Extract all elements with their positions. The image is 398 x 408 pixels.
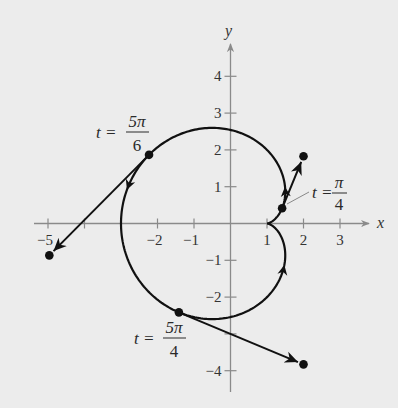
- curve-point: [145, 151, 154, 160]
- t-equals: t =: [96, 123, 116, 142]
- y-axis-label: y: [223, 22, 233, 40]
- fraction-numerator: 5π: [128, 112, 146, 131]
- x-tick-label: 3: [336, 232, 344, 248]
- fraction-denominator: 4: [170, 342, 179, 361]
- curve-point: [278, 204, 287, 213]
- y-tick-label: −2: [206, 289, 222, 305]
- x-tick-label: −2: [147, 232, 163, 248]
- t-equals: t =: [312, 183, 332, 202]
- x-tick-label: −5: [37, 232, 53, 248]
- axes: [34, 44, 369, 392]
- vector-tip-point: [45, 251, 54, 260]
- annotation-t-5pi-6: t = 5π 6: [96, 112, 149, 155]
- leader-line-pi4: [287, 192, 309, 204]
- y-tick-label: 4: [214, 68, 222, 84]
- y-tick-label: 1: [214, 179, 222, 195]
- t-equals: t =: [134, 329, 154, 348]
- parametric-curve-diagram: −5−2−11234321−1−2−4 x y t = π 4 t = 5π 6…: [0, 0, 398, 408]
- annotation-t-pi-4: t = π 4: [312, 173, 347, 214]
- y-tick-label: 3: [214, 105, 222, 121]
- fraction-denominator: 6: [133, 136, 142, 155]
- vector-tip-point: [299, 152, 308, 161]
- x-tick-label: 1: [263, 232, 271, 248]
- annotation-t-5pi-4: t = 5π 4: [134, 318, 186, 361]
- y-tick-label: −1: [206, 252, 222, 268]
- fraction-numerator: π: [335, 173, 344, 192]
- y-tick-label: −4: [206, 363, 222, 379]
- fraction-numerator: 5π: [165, 318, 183, 337]
- curve-point: [175, 308, 184, 317]
- y-tick-label: 2: [214, 142, 222, 158]
- fraction-denominator: 4: [335, 195, 344, 214]
- velocity-vector-arrow: [54, 155, 149, 251]
- velocity-vector-arrow: [179, 312, 298, 362]
- x-axis-label: x: [376, 214, 384, 231]
- vector-tip-point: [299, 360, 308, 369]
- x-tick-label: −1: [183, 232, 199, 248]
- x-tick-label: 2: [300, 232, 308, 248]
